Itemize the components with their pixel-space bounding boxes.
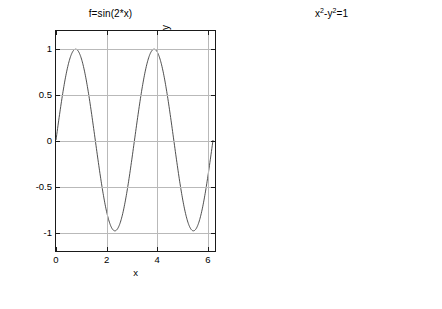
x-tick-label: 2 bbox=[104, 255, 109, 265]
x-axis-title: x bbox=[133, 268, 138, 278]
x-tick-mark bbox=[56, 247, 57, 251]
y-tick-label: 0.5 bbox=[39, 90, 52, 100]
title-part-eq: =1 bbox=[337, 8, 349, 19]
y-tick-label: -1 bbox=[44, 228, 52, 238]
gridline-horizontal bbox=[56, 233, 215, 234]
x-tick-mark bbox=[56, 31, 57, 35]
y-tick-mark bbox=[211, 233, 215, 234]
title-part-y: -y bbox=[324, 8, 333, 19]
figure-canvas: f=sin(2*x) 10.50-0.5-10246x y x2-y2=1 64… bbox=[0, 0, 442, 309]
sine-series-path bbox=[56, 49, 213, 231]
y-tick-mark bbox=[211, 187, 215, 188]
x-tick-label: 0 bbox=[53, 255, 58, 265]
gridline-horizontal bbox=[56, 49, 215, 50]
plot-title-sine: f=sin(2*x) bbox=[0, 8, 221, 20]
y-tick-label: 1 bbox=[47, 44, 52, 54]
y-tick-mark bbox=[56, 95, 60, 96]
y-tick-mark bbox=[211, 95, 215, 96]
x-tick-mark bbox=[208, 31, 209, 35]
plot-title-hyperbola: x2-y2=1 bbox=[221, 8, 442, 20]
y-tick-label: 0 bbox=[47, 136, 52, 146]
gridline-vertical bbox=[208, 31, 209, 251]
y-tick-mark bbox=[56, 187, 60, 188]
y-tick-mark bbox=[56, 49, 60, 50]
plot-panel-hyperbola: x2-y2=1 6420-2-4-6-505x y bbox=[221, 0, 442, 309]
x-tick-mark bbox=[157, 247, 158, 251]
y-tick-mark bbox=[211, 141, 215, 142]
axes-sine: 10.50-0.5-10246x bbox=[55, 30, 216, 252]
y-tick-mark bbox=[211, 49, 215, 50]
x-tick-mark bbox=[107, 31, 108, 35]
x-tick-mark bbox=[208, 247, 209, 251]
y-tick-mark bbox=[56, 233, 60, 234]
gridline-horizontal bbox=[56, 141, 215, 142]
x-tick-mark bbox=[157, 31, 158, 35]
y-tick-mark bbox=[56, 141, 60, 142]
x-tick-label: 6 bbox=[205, 255, 210, 265]
y-tick-label: -0.5 bbox=[36, 182, 52, 192]
gridline-vertical bbox=[157, 31, 158, 251]
x-tick-mark bbox=[107, 247, 108, 251]
gridline-horizontal bbox=[56, 187, 215, 188]
x-tick-label: 4 bbox=[155, 255, 160, 265]
gridline-horizontal bbox=[56, 95, 215, 96]
plot-panel-sine: f=sin(2*x) 10.50-0.5-10246x y bbox=[0, 0, 221, 309]
gridline-vertical bbox=[107, 31, 108, 251]
